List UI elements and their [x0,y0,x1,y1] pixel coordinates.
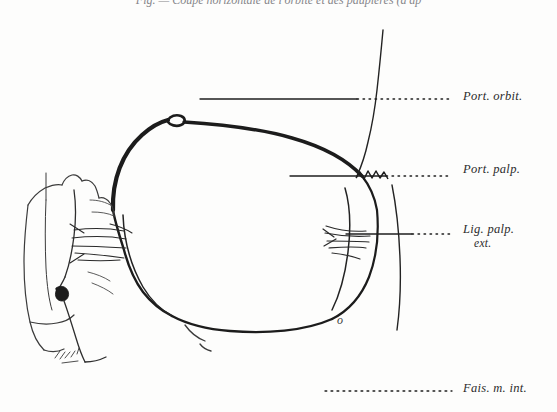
nasal-process-contour [55,190,106,362]
temporal-bone-contour [357,30,400,330]
label-lig-palp: Lig. palp. [463,222,514,236]
label-fais-m-int: Fais. m. int. [463,381,527,395]
inner-eyelid-contour [123,188,350,316]
label-port-orbit: Port. orbit. [463,89,523,103]
lateral-palpebral-ligament-fibers [323,226,370,259]
label-port-palp: Port. palp. [463,162,520,176]
anatomical-figure [0,0,557,412]
figure-page: Fig. — Coupe horizontale de l'orbite et … [0,0,557,412]
shading-marks-bottom-left [55,348,79,363]
label-lig-palp-ext: ext. [474,237,491,250]
marker-letter-o: o [337,313,343,328]
